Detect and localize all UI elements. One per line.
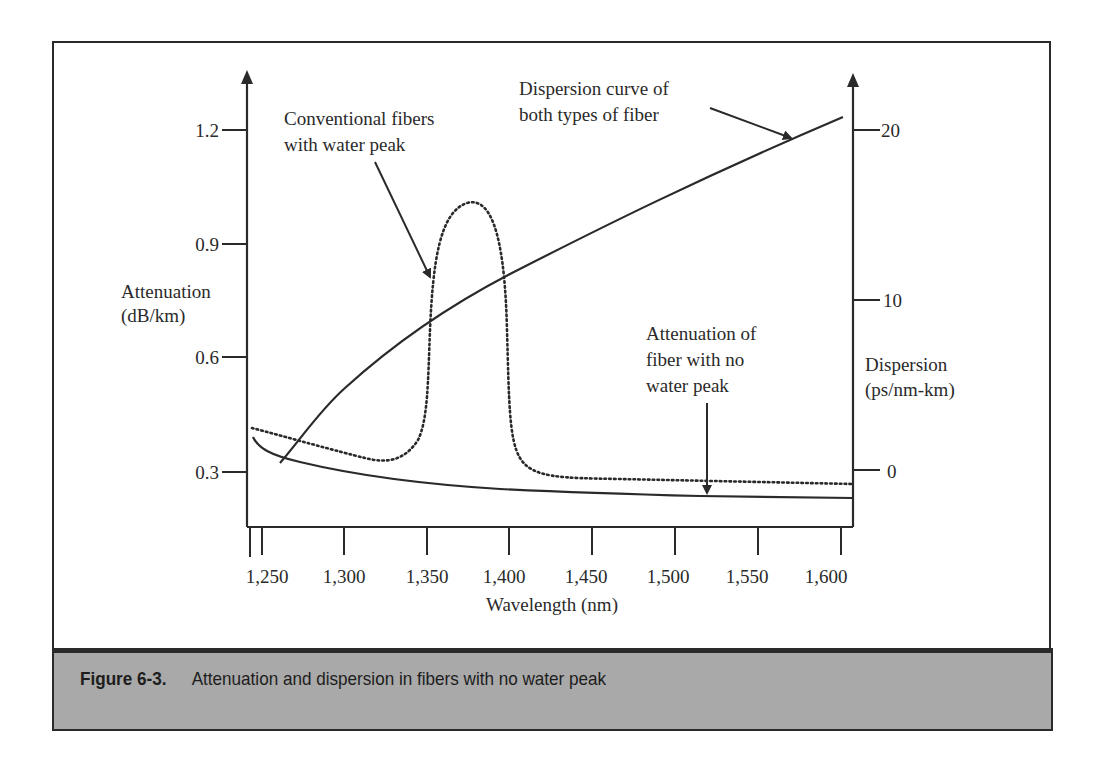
y-right-tick-10: 10 <box>883 290 902 311</box>
arrow-icon <box>710 108 791 138</box>
svg-text:fiber with no: fiber with no <box>646 349 744 370</box>
y-left-tick-0.3: 0.3 <box>195 462 219 483</box>
figure-caption-text: Attenuation and dispersion in fibers wit… <box>192 668 606 689</box>
y-left-label-line1: Attenuation <box>121 281 211 302</box>
series-conventional-water-peak <box>252 202 853 484</box>
x-tick-1400: 1,400 <box>483 566 526 587</box>
x-tick-1600: 1,600 <box>805 566 848 587</box>
y-axis-left: 1.2 0.9 0.6 0.3 Attenuation (dB/km) <box>121 70 253 527</box>
svg-text:Attenuation of: Attenuation of <box>646 323 757 344</box>
x-tick-1350: 1,350 <box>406 566 449 587</box>
annotation-no-water-peak: Attenuation of fiber with no water peak <box>646 323 757 493</box>
x-tick-1250: 1,250 <box>246 566 289 587</box>
x-tick-1500: 1,500 <box>647 566 690 587</box>
x-axis-label: Wavelength (nm) <box>486 594 618 616</box>
arrow-icon <box>375 162 430 277</box>
y-right-label-line1: Dispersion <box>865 354 948 375</box>
figure-number: Figure 6-3. <box>80 668 166 689</box>
series-dispersion <box>280 117 843 463</box>
x-tick-1550: 1,550 <box>726 566 769 587</box>
annotation-conventional: Conventional fibers with water peak <box>284 108 434 277</box>
y-left-tick-0.9: 0.9 <box>195 234 219 255</box>
y-left-label-line2: (dB/km) <box>121 305 185 327</box>
svg-text:both types of fiber: both types of fiber <box>519 104 660 125</box>
annotation-dispersion: Dispersion curve of both types of fiber <box>519 78 791 138</box>
axis-arrow-icon <box>847 73 859 87</box>
y-right-tick-0: 0 <box>887 461 897 482</box>
svg-text:water peak: water peak <box>646 375 729 396</box>
svg-text:Dispersion curve of: Dispersion curve of <box>519 78 670 99</box>
x-tick-1450: 1,450 <box>565 566 608 587</box>
y-left-tick-0.6: 0.6 <box>195 347 219 368</box>
series-no-water-peak <box>253 437 853 498</box>
y-right-tick-20: 20 <box>881 120 900 141</box>
figure-caption: Figure 6-3.Attenuation and dispersion in… <box>80 668 606 690</box>
y-axis-right: 20 10 0 Dispersion (ps/nm-km) <box>847 73 955 527</box>
svg-text:Conventional fibers: Conventional fibers <box>284 108 434 129</box>
x-tick-1300: 1,300 <box>323 566 366 587</box>
y-right-label-line2: (ps/nm-km) <box>865 379 955 401</box>
x-axis: 1,250 1,300 1,350 1,400 1,450 1,500 1,55… <box>246 527 853 616</box>
axis-arrow-icon <box>241 70 253 84</box>
y-left-tick-1.2: 1.2 <box>195 120 219 141</box>
svg-text:with water peak: with water peak <box>284 134 406 155</box>
